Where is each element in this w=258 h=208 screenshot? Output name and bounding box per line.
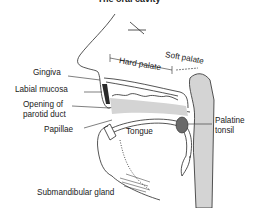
label-papillae: Papillae bbox=[44, 125, 73, 134]
pharynx-region bbox=[189, 74, 214, 208]
label-gingiva: Gingiva bbox=[33, 68, 61, 77]
label-palatine-line2: tonsil bbox=[215, 126, 234, 135]
label-palatine-line1: Palatine bbox=[215, 116, 245, 125]
lower-incisor bbox=[104, 124, 116, 140]
nose-outline bbox=[78, 14, 115, 72]
label-tongue: Tongue bbox=[126, 127, 153, 136]
label-parotid-line1: Opening of bbox=[23, 100, 63, 109]
label-parotid-line2: parotid duct bbox=[23, 110, 66, 119]
label-submandibular-gland: Submandibular gland bbox=[37, 188, 114, 197]
label-labial-mucosa: Labial mucosa bbox=[15, 85, 68, 94]
palatine-tonsil-shape bbox=[176, 117, 188, 133]
